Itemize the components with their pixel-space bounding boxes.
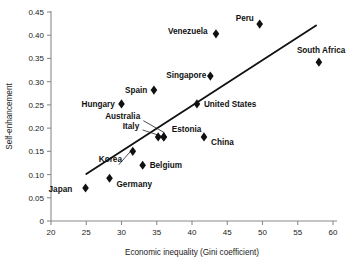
tick-marks bbox=[47, 12, 333, 225]
x-tick-label: 55 bbox=[293, 228, 302, 237]
y-tick-label: 0.15 bbox=[28, 147, 44, 156]
data-point-marker bbox=[118, 99, 125, 108]
y-tick-label: 0.10 bbox=[28, 171, 44, 180]
x-tick-label: 25 bbox=[82, 228, 91, 237]
trend-line bbox=[86, 25, 316, 174]
y-tick-label: 0.25 bbox=[28, 101, 44, 110]
x-axis-title: Economic inequality (Gini coefficient) bbox=[125, 248, 259, 257]
scatter-chart: 00.050.100.150.200.250.300.350.400.45202… bbox=[0, 0, 351, 264]
data-point-label: Singapore bbox=[166, 71, 206, 80]
data-point-marker bbox=[201, 132, 208, 141]
data-point-marker bbox=[129, 147, 136, 156]
data-point-marker bbox=[82, 183, 89, 192]
data-point-label: Spain bbox=[125, 86, 147, 95]
x-tick-label: 30 bbox=[117, 228, 126, 237]
y-tick-label: 0.35 bbox=[28, 54, 44, 63]
data-point-label: Korea bbox=[99, 155, 123, 164]
data-point-label: South Africa bbox=[297, 46, 346, 55]
y-axis-title: Self-enhancement bbox=[5, 83, 14, 150]
data-point-label: China bbox=[211, 138, 234, 147]
data-point-marker bbox=[106, 174, 113, 183]
data-point-label: Hungary bbox=[82, 100, 116, 109]
y-tick-label: 0.05 bbox=[28, 194, 44, 203]
data-point-label: United States bbox=[204, 100, 257, 109]
data-point-label: Germany bbox=[117, 180, 153, 189]
data-point-marker bbox=[256, 19, 263, 28]
data-point-label: Japan bbox=[49, 185, 73, 194]
y-tick-label: 0.45 bbox=[28, 8, 44, 17]
y-tick-label: 0.30 bbox=[28, 78, 44, 87]
data-point-label: Venezuela bbox=[168, 27, 208, 36]
x-tick-label: 40 bbox=[188, 228, 197, 237]
data-point-marker bbox=[139, 161, 146, 170]
x-tick-label: 45 bbox=[223, 228, 232, 237]
regression-line bbox=[86, 25, 316, 174]
x-tick-label: 50 bbox=[258, 228, 267, 237]
data-point-label: Estonia bbox=[172, 125, 202, 134]
y-tick-label: 0.20 bbox=[28, 124, 44, 133]
data-point-marker bbox=[213, 29, 220, 38]
data-point-marker bbox=[316, 58, 323, 67]
axes bbox=[51, 11, 337, 221]
x-tick-label: 20 bbox=[47, 228, 56, 237]
data-point-marker bbox=[161, 132, 168, 141]
y-tick-label: 0.40 bbox=[28, 31, 44, 40]
data-point-label: Italy bbox=[123, 122, 140, 131]
chart-canvas: 00.050.100.150.200.250.300.350.400.45202… bbox=[0, 0, 351, 264]
x-tick-label: 60 bbox=[329, 228, 338, 237]
x-tick-label: 35 bbox=[152, 228, 161, 237]
data-point-marker bbox=[155, 132, 162, 141]
y-tick-label: 0 bbox=[40, 217, 45, 226]
data-point-marker bbox=[207, 71, 214, 80]
data-point-label: Peru bbox=[236, 14, 254, 23]
data-point-label: Belgium bbox=[150, 161, 182, 170]
data-point-label: Australia bbox=[105, 112, 140, 121]
data-point-marker bbox=[151, 85, 158, 94]
